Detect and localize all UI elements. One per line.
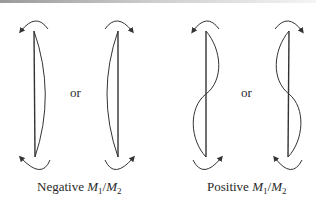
- positive-label: Positive M1/M2: [207, 179, 286, 196]
- moment-arrow-top-icon: [193, 21, 219, 31]
- moment-symbol: M: [87, 179, 98, 194]
- or-connector-negative: or: [70, 85, 81, 101]
- deflected-shape: [107, 31, 118, 157]
- moment-symbol: M: [106, 179, 117, 194]
- label-prefix: Positive: [207, 179, 252, 194]
- moment-symbol: M: [271, 179, 282, 194]
- or-connector-positive: or: [241, 85, 252, 101]
- column-1-single-curvature-right: [21, 21, 50, 170]
- column-3-double-curvature: [193, 21, 221, 170]
- moment-arrow-bottom-icon: [193, 158, 221, 170]
- column-4-double-curvature: [275, 21, 302, 170]
- moment-arrow-top-icon: [275, 21, 302, 31]
- moment-arrow-bottom-icon: [275, 158, 302, 170]
- moment-arrow-top-icon: [105, 21, 132, 31]
- column-chord: [34, 31, 35, 157]
- moment-symbol: M: [252, 179, 263, 194]
- negative-label: Negative M1/M2: [37, 179, 121, 196]
- moment-arrow-top-icon: [21, 21, 48, 31]
- label-prefix: Negative: [37, 179, 87, 194]
- moment-arrow-bottom-icon: [105, 158, 133, 170]
- moment-arrow-bottom-icon: [21, 158, 50, 170]
- deflected-shape: [34, 31, 45, 157]
- column-2-single-curvature-left: [105, 21, 133, 170]
- subscript: 2: [282, 186, 287, 196]
- subscript: 2: [117, 186, 122, 196]
- column-diagram: [0, 0, 316, 204]
